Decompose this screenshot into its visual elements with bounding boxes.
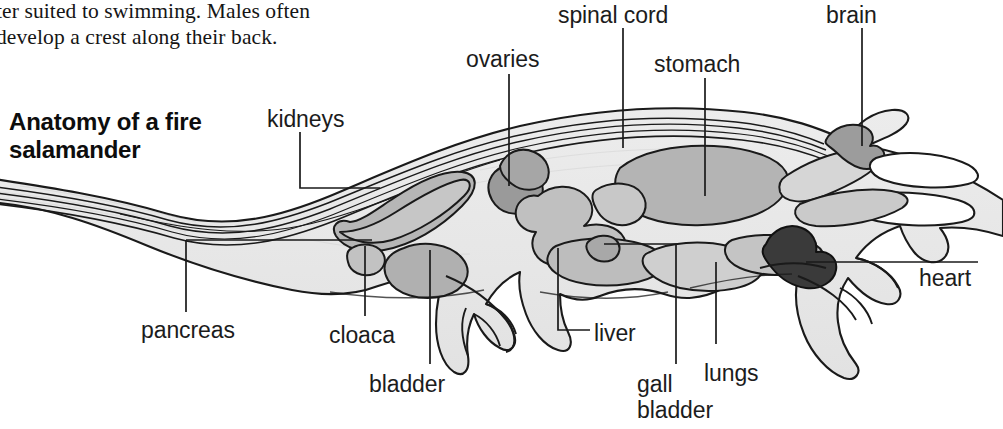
leader-pancreas <box>186 240 372 312</box>
diagram-title: Anatomy of a fire salamander <box>9 108 259 164</box>
article-body-text: ter suited to swimming. Males often deve… <box>0 0 310 50</box>
label-pancreas: pancreas <box>141 317 235 343</box>
label-gall-bladder: gall bladder <box>637 371 713 423</box>
leader-liver <box>558 248 590 330</box>
label-brain: brain <box>826 2 877 28</box>
label-bladder: bladder <box>369 371 445 397</box>
diagram-canvas: ter suited to swimming. Males often deve… <box>0 0 1003 429</box>
label-stomach: stomach <box>654 51 740 77</box>
label-heart: heart <box>919 265 971 291</box>
label-liver: liver <box>594 320 636 346</box>
leader-kidneys <box>300 132 380 188</box>
leader-gall-bladder <box>604 244 676 364</box>
label-cloaca: cloaca <box>329 322 395 348</box>
label-kidneys: kidneys <box>267 106 344 132</box>
label-spinal-cord: spinal cord <box>558 2 668 28</box>
label-ovaries: ovaries <box>466 46 539 72</box>
